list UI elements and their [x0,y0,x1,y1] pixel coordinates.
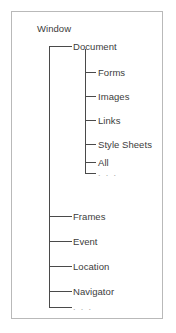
branch-line-document-ellipsis [85,173,96,174]
branch-line-window-ellipsis [49,307,72,308]
branch-line-style-sheets [85,144,96,145]
tree-node-document-ellipsis: . . . [98,168,118,179]
branch-line-event [49,241,72,242]
tree-node-links: Links [98,115,120,126]
trunk-line-document-children [85,49,86,173]
branch-line-all [85,162,96,163]
branch-line-images [85,96,96,97]
tree-node-window: Window [37,23,71,34]
tree-node-window-ellipsis: . . . [73,302,93,313]
branch-line-location [49,266,72,267]
tree-node-document: Document [73,41,117,52]
branch-line-document [49,46,72,47]
tree-node-style-sheets: Style Sheets [98,139,152,150]
tree-node-images: Images [98,91,129,102]
tree-node-event: Event [73,236,98,247]
tree-node-frames: Frames [73,211,106,222]
branch-line-navigator [49,291,72,292]
branch-line-forms [85,72,96,73]
tree-node-navigator: Navigator [73,286,114,297]
tree-node-location: Location [73,261,109,272]
diagram-frame: Window Document Forms Images Links Style… [11,11,163,319]
object-model-tree-diagram: Window Document Forms Images Links Style… [0,0,176,333]
tree-node-all: All [98,157,109,168]
trunk-line-window [49,46,50,307]
branch-line-links [85,120,96,121]
tree-node-forms: Forms [98,67,125,78]
branch-line-frames [49,216,72,217]
